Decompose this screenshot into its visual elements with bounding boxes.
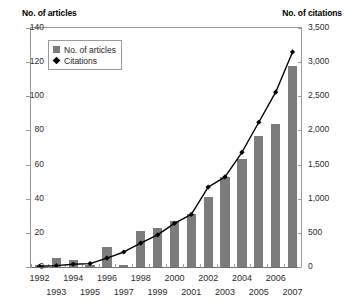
- right-axis-title: No. of citations: [282, 8, 342, 18]
- x-axis-label: 2000: [158, 274, 190, 283]
- right-tick-label: 1,000: [308, 194, 344, 203]
- left-axis-title: No. of articles: [22, 8, 77, 18]
- x-axis-label: 1992: [23, 274, 55, 283]
- left-tick-mark: [26, 199, 30, 200]
- x-axis-label: 1999: [142, 288, 174, 297]
- bar: [119, 265, 128, 267]
- left-tick-mark: [26, 165, 30, 166]
- x-axis-label: 2007: [277, 288, 309, 297]
- left-tick-mark: [26, 28, 30, 29]
- x-axis-label: 1993: [40, 288, 72, 297]
- x-axis-label: 1995: [74, 288, 106, 297]
- bar: [288, 66, 297, 267]
- x-axis-label: 2003: [209, 288, 241, 297]
- bar: [35, 265, 44, 267]
- bar: [204, 197, 213, 267]
- bar: [85, 265, 94, 267]
- bar: [271, 124, 280, 267]
- legend-square-icon: [53, 46, 60, 53]
- chart-figure: No. of articles No. of citations 0204060…: [0, 0, 348, 307]
- bar: [237, 159, 246, 267]
- right-tick-label: 1,500: [308, 160, 344, 169]
- bar: [187, 214, 196, 267]
- left-tick-mark: [26, 233, 30, 234]
- x-axis-label: 1996: [91, 274, 123, 283]
- left-tick-mark: [26, 130, 30, 131]
- x-axis-label: 2004: [226, 274, 258, 283]
- bar: [52, 258, 61, 267]
- x-axis-label: 2001: [175, 288, 207, 297]
- x-axis-label: 1994: [57, 274, 89, 283]
- x-axis-label: 2005: [243, 288, 275, 297]
- right-tick-label: 500: [308, 228, 344, 237]
- x-tick-mark: [301, 264, 302, 268]
- bar: [254, 136, 263, 267]
- x-axis-label: 1997: [108, 288, 140, 297]
- legend-diamond-icon: [53, 57, 61, 65]
- right-tick-label: 3,500: [308, 23, 344, 32]
- left-tick-mark: [26, 62, 30, 63]
- left-tick-mark: [26, 96, 30, 97]
- x-axis-label: 1998: [125, 274, 157, 283]
- bar: [153, 228, 162, 267]
- bar: [170, 221, 179, 267]
- legend: No. of articles Citations: [48, 40, 122, 70]
- right-tick-label: 2,000: [308, 125, 344, 134]
- right-tick-label: 0: [308, 262, 344, 271]
- right-tick-label: 3,000: [308, 57, 344, 66]
- x-axis-label: 2006: [260, 274, 292, 283]
- right-tick-label: 2,500: [308, 91, 344, 100]
- bar: [69, 260, 78, 267]
- left-tick-mark: [26, 267, 30, 268]
- bar: [136, 231, 145, 267]
- legend-item-articles: No. of articles: [53, 44, 116, 55]
- bar: [220, 177, 229, 267]
- x-axis-label: 2002: [192, 274, 224, 283]
- bar: [102, 247, 111, 267]
- legend-label-citations: Citations: [64, 56, 97, 66]
- legend-label-articles: No. of articles: [64, 45, 116, 55]
- legend-item-citations: Citations: [53, 55, 116, 66]
